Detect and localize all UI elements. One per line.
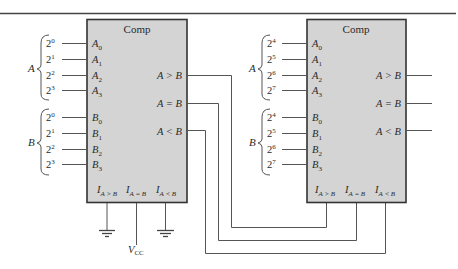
ground-icon — [157, 203, 174, 237]
vcc-connection: VCC — [128, 203, 144, 257]
left-out-eq-label: A = B — [156, 98, 183, 109]
vcc-label: VCC — [128, 244, 144, 257]
svg-text:25: 25 — [267, 53, 276, 65]
svg-text:25: 25 — [267, 127, 276, 139]
svg-text:27: 27 — [267, 84, 276, 96]
left-comparator-box — [87, 20, 187, 203]
right-comparator: Comp A 24 A0 25 A1 26 A2 27 A3 — [248, 20, 432, 203]
svg-text:24: 24 — [267, 37, 276, 49]
svg-text:20: 20 — [46, 37, 55, 49]
right-out-gt-label: A > B — [375, 70, 402, 81]
left-a-group-label: A — [27, 62, 35, 74]
svg-text:22: 22 — [46, 69, 55, 81]
svg-text:21: 21 — [46, 53, 55, 65]
right-out-lt-label: A < B — [375, 126, 402, 137]
svg-text:22: 22 — [46, 143, 55, 155]
right-b-group-label: B — [249, 136, 256, 148]
comparator-diagram: Comp A 20 A0 21 A1 22 A2 23 — [0, 0, 458, 269]
left-out-lt-label: A < B — [156, 126, 183, 137]
svg-text:26: 26 — [267, 69, 276, 81]
wire-gt — [187, 76, 327, 228]
svg-text:27: 27 — [267, 158, 276, 170]
svg-text:23: 23 — [46, 158, 55, 170]
ground-icon — [99, 203, 115, 237]
svg-text:21: 21 — [46, 127, 55, 139]
svg-text:26: 26 — [267, 143, 276, 155]
svg-text:20: 20 — [46, 111, 55, 123]
svg-text:23: 23 — [46, 84, 55, 96]
right-out-eq-label: A = B — [375, 98, 402, 109]
right-comp-label: Comp — [343, 23, 370, 35]
right-a-group-label: A — [248, 62, 256, 74]
left-out-gt-label: A > B — [156, 70, 183, 81]
left-comparator: Comp A 20 A0 21 A1 22 A2 23 — [27, 20, 187, 258]
svg-text:24: 24 — [267, 111, 276, 123]
left-b-group-label: B — [28, 136, 35, 148]
left-comp-label: Comp — [124, 23, 151, 35]
